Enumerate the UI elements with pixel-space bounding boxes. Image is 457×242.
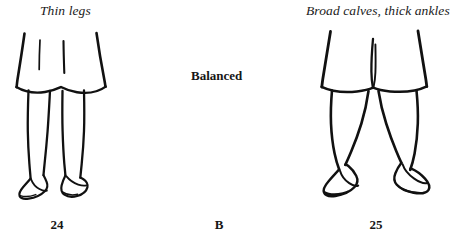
illustration-page: Thin legs Broad calves, thick ankles Bal…: [0, 0, 457, 242]
caption-right-broad-calves: Broad calves, thick ankles: [306, 4, 450, 18]
caption-left-thin-legs: Thin legs: [40, 4, 91, 18]
caption-center-balanced: Balanced: [191, 69, 242, 82]
figure-number-center: B: [199, 218, 239, 231]
figure-number-left: 24: [37, 218, 77, 231]
figure-number-right: 25: [356, 218, 396, 231]
figure-drawing-thin-legs: [0, 0, 130, 215]
figure-drawing-broad-calves: [300, 0, 457, 215]
